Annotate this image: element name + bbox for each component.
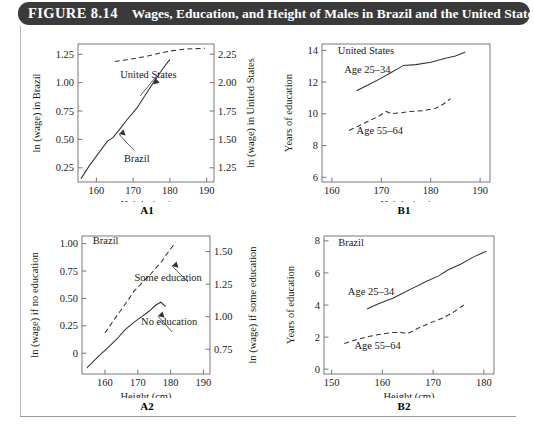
y-tick-label: 0.25 — [56, 162, 74, 173]
panel-b2-tag: B2 — [278, 400, 530, 412]
annotation-label: Age 55–64 — [354, 340, 401, 351]
y-tick-label: 1.00 — [60, 238, 78, 249]
y-tick-label: 1.25 — [56, 49, 74, 60]
x-tick-label: 180 — [476, 377, 492, 388]
annotation-label: Age 25–34 — [344, 64, 391, 75]
y2-tick-label: 1.25 — [214, 279, 232, 290]
y-tick-label: 4 — [315, 300, 321, 311]
x-tick-label: 180 — [423, 185, 439, 196]
annotation-label: Some education — [135, 272, 203, 283]
annotation-label: United States — [338, 45, 394, 56]
x-tick-label: 180 — [163, 377, 179, 388]
x-tick-label: 190 — [472, 185, 488, 196]
chart-b1: 16017018019068101214Height (cm)Years of … — [278, 30, 530, 202]
y2-tick-label: 1.50 — [214, 246, 232, 257]
annotation-label: Age 25–34 — [348, 286, 395, 297]
y-tick-label: 10 — [308, 108, 319, 119]
y-tick-label: 0.75 — [60, 266, 78, 277]
panel-a1-tag: A1 — [22, 204, 272, 216]
series-age-55-64 — [344, 303, 466, 343]
figure-root: FIGURE 8.14 Wages, Education, and Height… — [0, 0, 534, 427]
x-tick-label: 150 — [324, 377, 340, 388]
x-axis-title: Height (cm) — [383, 391, 435, 398]
panel-b1-tag: B1 — [278, 204, 530, 216]
chart-b2: 15016017018002468Height (cm)Years of edu… — [278, 222, 530, 398]
x-axis-title: Height (cm) — [380, 199, 432, 202]
figure-title-bar: FIGURE 8.14 Wages, Education, and Height… — [18, 2, 530, 25]
y-tick-label: 0.50 — [56, 134, 74, 145]
annotation-label: Age 55–64 — [357, 125, 404, 136]
figure-caption: Wages, Education, and Height of Males in… — [132, 6, 534, 22]
y2-tick-label: 1.50 — [218, 134, 236, 145]
y-tick-label: 0 — [73, 348, 78, 359]
panel-a2: 16017018019000.250.500.751.000.751.001.2… — [22, 222, 272, 414]
y2-axis-title: ln (wage) if some education — [247, 246, 259, 364]
panel-b1: 16017018019068101214Height (cm)Years of … — [278, 30, 530, 220]
panel-a1: 1601701801900.250.500.751.001.251.251.50… — [22, 30, 272, 220]
series-age-25-34 — [367, 251, 486, 309]
x-tick-label: 190 — [199, 185, 215, 196]
y2-tick-label: 1.75 — [218, 106, 236, 117]
y-tick-label: 1.00 — [56, 77, 74, 88]
series-no-education — [87, 302, 166, 368]
x-tick-label: 180 — [162, 185, 178, 196]
y2-axis-title: ln (wage) in United States — [245, 58, 257, 168]
page-left-rule — [20, 26, 21, 416]
y-tick-label: 8 — [315, 235, 320, 246]
annotation-label: No education — [141, 316, 198, 327]
y-tick-label: 0.75 — [56, 106, 74, 117]
y-tick-label: 12 — [308, 77, 319, 88]
x-axis-title: Height (cm) — [120, 391, 172, 398]
y2-tick-label: 0.75 — [214, 344, 232, 355]
x-tick-label: 190 — [196, 377, 212, 388]
chart-a2: 16017018019000.250.500.751.000.751.001.2… — [22, 222, 272, 398]
series-united-states — [115, 48, 205, 61]
y-tick-label: 0.25 — [60, 320, 78, 331]
page-bottom-rule — [20, 416, 516, 417]
x-tick-label: 170 — [130, 377, 146, 388]
x-axis-title: Height (cm) — [120, 199, 172, 202]
y-tick-label: 6 — [315, 268, 320, 279]
x-tick-label: 160 — [324, 185, 340, 196]
chart-a1: 1601701801900.250.500.751.001.251.251.50… — [22, 30, 272, 202]
y-tick-label: 0 — [315, 364, 320, 375]
x-tick-label: 170 — [425, 377, 441, 388]
leader-arrow — [119, 134, 134, 150]
figure-number: FIGURE 8.14 — [28, 5, 118, 22]
x-tick-label: 160 — [374, 377, 390, 388]
y2-tick-label: 2.00 — [218, 77, 236, 88]
x-tick-label: 160 — [97, 377, 113, 388]
annotation-label: United States — [120, 69, 176, 80]
y2-tick-label: 1.00 — [214, 311, 232, 322]
y-axis-title: Years of education — [283, 73, 294, 152]
annotation-label: Brazil — [93, 235, 119, 246]
y-tick-label: 6 — [313, 172, 318, 183]
y-tick-label: 14 — [308, 45, 319, 56]
x-tick-label: 170 — [125, 185, 141, 196]
panel-b2: 15016017018002468Height (cm)Years of edu… — [278, 222, 530, 414]
y-tick-label: 2 — [315, 332, 320, 343]
y2-tick-label: 2.25 — [218, 49, 236, 60]
y2-tick-label: 1.25 — [218, 162, 236, 173]
y-tick-label: 8 — [313, 140, 318, 151]
y-tick-label: 0.50 — [60, 293, 78, 304]
x-tick-label: 170 — [373, 185, 389, 196]
annotation-label: Brazil — [338, 237, 364, 248]
x-tick-label: 160 — [89, 185, 105, 196]
panel-a2-tag: A2 — [22, 400, 272, 412]
y-axis-title: ln (wage) in Brazil — [31, 73, 43, 152]
y-axis-title: Years of education — [285, 265, 296, 344]
leader-arrow — [140, 78, 155, 96]
annotation-label: Brazil — [124, 153, 150, 164]
y-axis-title: ln (wage) if no education — [29, 251, 41, 357]
